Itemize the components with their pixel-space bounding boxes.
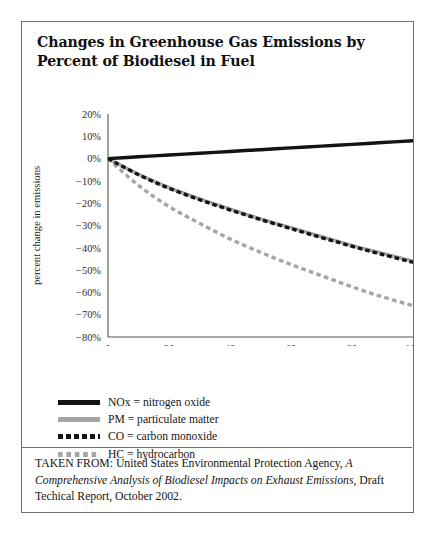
x-tick-label: 20 (164, 343, 174, 346)
plot-area: 20%10%0%−10%−20%−30%−40%−50%−60%−70%−80%… (22, 84, 413, 346)
data-series-group (108, 141, 413, 306)
x-axis-tick-labels: 020406080100 (105, 343, 413, 346)
legend-label-nox: NOx = nitrogen oxide (108, 396, 210, 409)
legend-label-co: CO = carbon monoxide (108, 430, 217, 443)
y-tick-label: −40% (76, 243, 101, 254)
y-tick-label: −20% (76, 198, 101, 209)
legend-item-pm[interactable]: PM = particulate matter (58, 411, 378, 428)
y-tick-label: −70% (76, 309, 101, 320)
caption-divider (22, 447, 412, 448)
legend-swatch-nox (58, 400, 100, 405)
legend-item-nox[interactable]: NOx = nitrogen oxide (58, 394, 378, 411)
y-tick-label: 20% (82, 109, 101, 120)
x-tick-label: 100 (405, 343, 413, 346)
x-tick-label: 60 (286, 343, 296, 346)
y-tick-label: 10% (82, 131, 101, 142)
y-tick-label: −80% (76, 332, 101, 343)
series-line-pm (108, 159, 413, 262)
chart-svg: 20%10%0%−10%−20%−30%−40%−50%−60%−70%−80%… (22, 84, 413, 346)
y-axis-tick-labels: 20%10%0%−10%−20%−30%−40%−50%−60%−70%−80% (76, 109, 101, 343)
x-tick-label: 0 (105, 343, 110, 346)
chart-title: Changes in Greenhouse Gas Emissions by P… (37, 33, 397, 70)
y-tick-label: 0% (87, 153, 101, 164)
x-tick-label: 40 (225, 343, 235, 346)
figure-container: Changes in Greenhouse Gas Emissions by P… (21, 21, 414, 513)
y-tick-label: −10% (76, 176, 101, 187)
chart-legend: NOx = nitrogen oxidePM = particulate mat… (58, 394, 378, 463)
series-line-nox (108, 141, 413, 159)
legend-item-co[interactable]: CO = carbon monoxide (58, 428, 378, 445)
legend-label-pm: PM = particulate matter (108, 413, 219, 426)
legend-swatch-pm (58, 417, 100, 422)
axis-lines (108, 114, 413, 337)
y-tick-label: −30% (76, 220, 101, 231)
series-line-co (108, 159, 413, 263)
y-axis-title: percent change in emissions (31, 166, 42, 285)
y-tick-label: −50% (76, 265, 101, 276)
source-caption: TAKEN FROM: United States Environmental … (35, 456, 401, 506)
caption-prefix: TAKEN FROM: United States Environmental … (35, 457, 346, 470)
y-tick-label: −60% (76, 287, 101, 298)
legend-swatch-co (58, 434, 100, 439)
x-tick-label: 80 (347, 343, 357, 346)
